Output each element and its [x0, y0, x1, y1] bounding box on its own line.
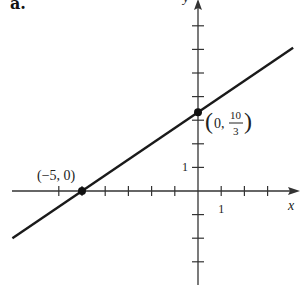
y-tick-label: 1: [182, 160, 188, 174]
x-tick-label: 1: [218, 202, 224, 216]
axis-labels: 11xy(−5, 0)(0,103): [37, 0, 295, 216]
y-axis-label: y: [181, 0, 189, 5]
fraction-denominator: 3: [233, 125, 239, 137]
figure: a. 11xy(−5, 0)(0,103): [0, 0, 308, 285]
point-label-y-intercept: (0,103): [205, 108, 252, 137]
point-label-x-intercept: (−5, 0): [37, 168, 76, 184]
data-point-marker: [78, 187, 86, 195]
data-series: [12, 48, 293, 238]
label-prefix: 0,: [214, 116, 225, 131]
paren-left: (: [205, 108, 213, 134]
axes: [12, 0, 300, 285]
x-axis-label: x: [287, 198, 295, 213]
part-label: a.: [10, 0, 26, 13]
fraction-numerator: 10: [230, 109, 242, 121]
line-chart: 11xy(−5, 0)(0,103): [0, 0, 308, 285]
data-point-marker: [194, 108, 202, 116]
line-series: [12, 48, 293, 238]
axis-ticks: [59, 26, 268, 262]
paren-right: ): [244, 108, 252, 134]
